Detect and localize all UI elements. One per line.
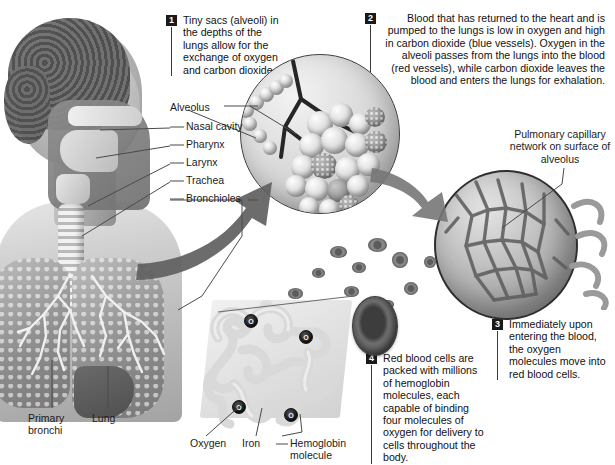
pulmonary-capillary-leader	[480, 166, 570, 236]
callout-2-text: Blood that has returned to the heart and…	[382, 12, 605, 86]
label-hemoglobin-molecule: Hemoglobin molecule	[290, 437, 368, 462]
arrow-alveoli-to-capillary	[368, 152, 454, 224]
callout-1-number: 1	[166, 15, 177, 26]
alveolus-pointer	[250, 104, 300, 140]
label-trachea: Trachea	[186, 174, 224, 186]
label-bronchioles: Bronchioles	[186, 192, 241, 204]
label-larynx: Larynx	[186, 156, 218, 168]
label-primary-bronchi: Primary bronchi	[28, 412, 88, 437]
callout-2-number: 2	[365, 13, 376, 24]
label-oxygen: Oxygen	[190, 437, 226, 449]
callout-3-number: 3	[492, 319, 503, 330]
label-alveolus: Alveolus	[170, 101, 210, 113]
label-nasal-cavity: Nasal cavity	[186, 120, 243, 132]
bottom-leader-lines	[40, 360, 120, 412]
bronchioles-leader	[248, 194, 260, 206]
label-pulmonary-capillary-network: Pulmonary capillary network on surface o…	[508, 128, 612, 165]
callout-4: 4 Red blood cells are packed with millio…	[366, 352, 488, 464]
callout-3: 3 Immediately upon entering the blood, t…	[492, 318, 610, 380]
callout-4-text: Red blood cells are packed with millions…	[383, 352, 488, 464]
capillary-loops-detail	[566, 190, 614, 310]
molecule-leader-lines	[196, 396, 346, 440]
label-iron: Iron	[242, 437, 260, 449]
callout-3-text: Immediately upon entering the blood, the…	[509, 318, 610, 380]
hemoglobin-label-dash	[276, 440, 290, 448]
callout-2: 2 Blood that has returned to the heart a…	[365, 12, 605, 86]
respiratory-system-figure: 1 Tiny sacs (alveoli) in the depths of t…	[0, 0, 615, 465]
label-pharynx: Pharynx	[186, 138, 225, 150]
label-lung: Lung	[92, 412, 115, 424]
